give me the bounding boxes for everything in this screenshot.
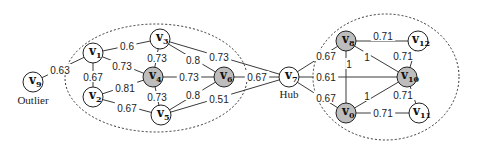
graph-diagram: 0.630.60.730.670.810.670.730.80.730.730.…	[0, 0, 479, 145]
edge-weight-label: 0.67	[83, 72, 103, 83]
hub-label: Hub	[280, 88, 299, 100]
edge-weight-label: 0.71	[393, 51, 413, 62]
edge-weight-label: 0.8	[186, 55, 200, 66]
edge-weight-label: 0.67	[316, 93, 336, 104]
node-v9: v9	[23, 72, 43, 92]
edge-weight-label: 0.73	[209, 52, 229, 63]
edge-weight-label: 0.67	[316, 51, 336, 62]
node-v4: v4	[143, 67, 163, 87]
edge-weight-label: 0.73	[147, 53, 167, 64]
node-v6: v6	[214, 67, 234, 87]
edge-weight-label: 1	[364, 52, 370, 63]
edge-weight-label: 0.8	[186, 90, 200, 101]
node-v3: v3	[150, 29, 170, 49]
edge-weight-label: 0.71	[373, 108, 393, 119]
node-v0: v0	[336, 103, 356, 123]
edge-weight-label: 0.71	[373, 31, 393, 42]
edge-weight-label: 0.67	[247, 72, 267, 83]
edge-weight-label: 0.73	[179, 72, 199, 83]
node-v1: v1	[83, 43, 103, 63]
edge-weight-label: 0.71	[393, 90, 413, 101]
edge-weight-label: 0.61	[316, 72, 336, 83]
outlier-label: Outlier	[17, 94, 48, 106]
edge-weight-label: 0.67	[117, 103, 137, 114]
edge-weight-label: 0.63	[50, 65, 70, 76]
node-v8: v8	[336, 31, 356, 51]
node-v2: v2	[83, 87, 103, 107]
edge-weight-label: 0.51	[209, 94, 229, 105]
edge-weight-label: 0.73	[112, 61, 132, 72]
node-v5: v5	[151, 105, 171, 125]
edge-weight-label: 1	[364, 91, 370, 102]
edge-weight-label: 0.6	[120, 41, 134, 52]
node-v7: v7	[279, 67, 299, 87]
edge-weight-label: 1	[346, 59, 352, 70]
node-v12: v12	[408, 31, 430, 51]
node-v11: v11	[409, 103, 431, 123]
edge-weight-label: 0.81	[115, 83, 135, 94]
edge-weight-label: 0.73	[147, 92, 167, 103]
node-v10: v10	[397, 67, 420, 87]
